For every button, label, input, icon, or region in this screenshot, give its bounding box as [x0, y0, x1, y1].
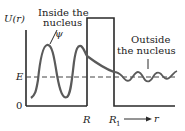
potential-barrier-diagram: U(r) Inside the nucleus ψ Outside the nu… [0, 0, 185, 131]
wavefunction-barrier [87, 56, 114, 72]
r-label-R: R [82, 114, 91, 125]
outside-label-1: Outside [131, 34, 170, 45]
r-label-R1-sub: 1 [116, 120, 120, 128]
wavefunction-inside [31, 45, 87, 98]
outside-label-2: the nucleus [117, 45, 176, 56]
y-axis-label: U(r) [4, 13, 25, 24]
inside-label-2: nucleus [43, 17, 82, 28]
arrowhead-icon [146, 117, 152, 122]
psi-label: ψ [55, 28, 63, 39]
energy-label: E [15, 71, 24, 82]
origin-label: 0 [16, 100, 22, 111]
x-axis-label: r [154, 113, 160, 124]
wavefunction-outside [114, 71, 177, 81]
potential-barrier [87, 18, 175, 106]
